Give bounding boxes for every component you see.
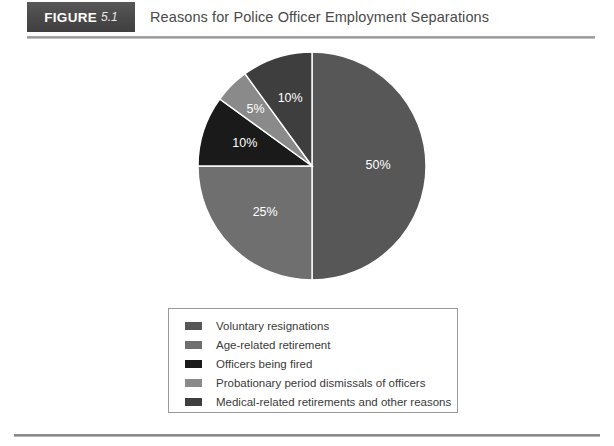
legend-swatch-icon (185, 398, 202, 406)
page-title: Reasons for Police Officer Employment Se… (150, 2, 489, 32)
figure-number-label: 5.1 (101, 10, 118, 24)
pie-chart-container: 50%25%10%5%10% (0, 42, 614, 304)
figure-number-tab: FIGURE 5.1 (27, 2, 135, 32)
legend-item-label: Officers being fired (216, 358, 312, 370)
legend-swatch-icon (185, 341, 202, 349)
legend-item-medical-related-retirements: Medical-related retirements and other re… (185, 393, 457, 411)
header-divider (27, 36, 595, 39)
pie-slice-label: 10% (278, 91, 303, 105)
legend-swatch-icon (185, 379, 202, 387)
legend-item-officers-being-fired: Officers being fired (185, 355, 457, 373)
legend-item-age-related-retirement: Age-related retirement (185, 336, 457, 354)
legend-item-label: Probationary period dismissals of office… (216, 377, 425, 389)
legend-item-probationary-dismissals: Probationary period dismissals of office… (185, 374, 457, 392)
pie-chart: 50%25%10%5%10% (196, 52, 428, 294)
pie-slice-label: 50% (366, 158, 391, 172)
chart-legend: Voluntary resignations Age-related retir… (168, 308, 458, 413)
legend-item-label: Age-related retirement (216, 339, 330, 351)
legend-item-voluntary-resignations: Voluntary resignations (185, 317, 457, 335)
pie-slice (198, 166, 312, 280)
footer-divider (14, 434, 600, 437)
pie-slice-label: 5% (247, 102, 265, 116)
legend-swatch-icon (185, 322, 202, 330)
legend-item-label: Voluntary resignations (216, 320, 329, 332)
legend-item-label: Medical-related retirements and other re… (216, 396, 451, 408)
legend-swatch-icon (185, 360, 202, 368)
pie-slice-label: 25% (253, 205, 278, 219)
figure-word-label: FIGURE (44, 10, 97, 25)
pie-slice-label: 10% (232, 136, 257, 150)
pie-slice-group (198, 52, 426, 280)
figure-header: FIGURE 5.1 Reasons for Police Officer Em… (0, 0, 614, 40)
